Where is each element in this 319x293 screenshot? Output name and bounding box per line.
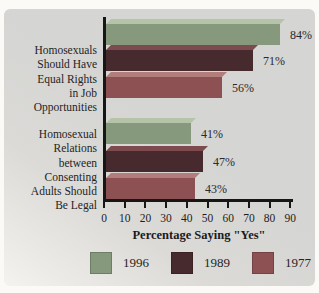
bar-top-face: [106, 146, 208, 151]
x-axis-tick-label: 90: [278, 212, 302, 224]
x-axis-tick: [124, 202, 126, 208]
bar-top-face: [106, 118, 196, 123]
bar-value-label: 71%: [263, 54, 285, 69]
x-axis-tick: [144, 202, 146, 208]
x-axis-line: [103, 199, 293, 202]
legend: 1996 1989 1977: [90, 252, 310, 274]
x-axis-tick: [165, 202, 167, 208]
x-axis-tick: [186, 202, 188, 208]
x-axis-tick: [207, 202, 209, 208]
bar-top-face: [106, 72, 227, 77]
legend-item-1996: 1996: [90, 252, 149, 274]
bar-1989-group2: [106, 151, 203, 172]
x-axis-tick: [289, 202, 291, 208]
legend-swatch-1996: [90, 252, 112, 274]
x-axis-tick: [269, 202, 271, 208]
bar-top-face: [106, 19, 285, 24]
bar-1996-group1: [106, 24, 280, 45]
bar-value-label: 84%: [290, 28, 312, 43]
bar-value-label: 41%: [201, 127, 223, 142]
legend-label-1977: 1977: [285, 255, 311, 271]
x-axis-tick: [103, 202, 105, 208]
legend-swatch-1977: [252, 252, 274, 274]
bar-1996-group2: [106, 123, 191, 144]
bar-1989-group1: [106, 50, 253, 71]
bar-value-label: 43%: [205, 182, 227, 197]
x-axis-tick: [227, 202, 229, 208]
bar-top-face: [106, 45, 258, 50]
x-axis-tick: [248, 202, 250, 208]
legend-label-1989: 1989: [204, 255, 230, 271]
chart-figure: Homosexuals Should Have Equal Rights in …: [0, 0, 319, 293]
bar-top-face: [106, 173, 200, 178]
bar-value-label: 56%: [232, 81, 254, 96]
legend-label-1996: 1996: [123, 255, 149, 271]
legend-item-1977: 1977: [252, 252, 311, 274]
category-label-relations-legal: Homosexual Relations between Consenting …: [2, 127, 97, 213]
bar-1977-group1: [106, 77, 222, 98]
legend-item-1989: 1989: [171, 252, 230, 274]
bar-value-label: 47%: [213, 155, 235, 170]
bar-1977-group2: [106, 178, 195, 199]
category-label-equal-rights: Homosexuals Should Have Equal Rights in …: [2, 43, 97, 114]
legend-swatch-1989: [171, 252, 193, 274]
x-axis-title: Percentage Saying "Yes": [103, 228, 295, 243]
